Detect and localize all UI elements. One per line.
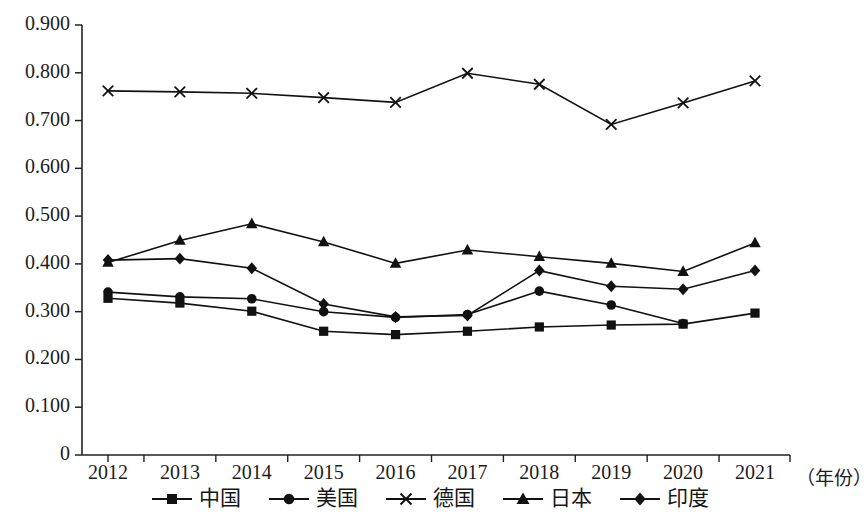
data-point-中国 bbox=[391, 330, 400, 339]
data-point-日本 bbox=[462, 244, 474, 255]
legend-label: 中国 bbox=[199, 488, 241, 509]
data-point-中国 bbox=[319, 327, 328, 336]
y-axis-tick-label: 0.300 bbox=[0, 299, 70, 322]
y-axis-tick-label: 0.600 bbox=[0, 155, 70, 178]
data-point-美国 bbox=[103, 287, 113, 297]
legend-item-中国[interactable]: 中国 bbox=[150, 488, 241, 509]
chart-legend: 中国美国德国日本印度 bbox=[0, 488, 858, 509]
data-point-美国 bbox=[175, 292, 185, 302]
data-point-美国 bbox=[606, 300, 616, 310]
data-point-中国 bbox=[607, 320, 616, 329]
y-axis-tick-label: 0.900 bbox=[0, 12, 70, 35]
data-point-美国 bbox=[535, 286, 545, 296]
x-axis-title: （年份） bbox=[796, 463, 864, 490]
x-axis-tick-label: 2021 bbox=[710, 461, 800, 484]
data-point-中国 bbox=[247, 307, 256, 316]
data-point-印度 bbox=[462, 310, 473, 322]
data-point-印度 bbox=[318, 298, 329, 310]
data-point-日本 bbox=[749, 237, 761, 248]
legend-item-印度[interactable]: 印度 bbox=[618, 488, 709, 509]
data-point-印度 bbox=[678, 283, 689, 295]
data-point-印度 bbox=[390, 311, 401, 323]
data-point-日本 bbox=[246, 218, 258, 229]
data-point-印度 bbox=[534, 265, 545, 277]
y-axis-tick-label: 0 bbox=[0, 442, 70, 465]
y-axis-tick-label: 0.400 bbox=[0, 251, 70, 274]
diamond-marker-icon bbox=[618, 490, 662, 508]
series-line-德国 bbox=[108, 73, 755, 124]
data-point-印度 bbox=[246, 262, 257, 274]
square-marker-icon bbox=[150, 490, 194, 508]
series-line-日本 bbox=[108, 224, 755, 272]
series-line-印度 bbox=[108, 259, 755, 317]
data-point-中国 bbox=[535, 322, 544, 331]
data-point-印度 bbox=[750, 265, 761, 277]
y-axis-tick-label: 0.500 bbox=[0, 203, 70, 226]
y-axis-tick-label: 0.100 bbox=[0, 394, 70, 417]
circle-marker-icon bbox=[267, 490, 311, 508]
data-point-美国 bbox=[247, 294, 257, 304]
data-point-印度 bbox=[606, 280, 617, 292]
legend-label: 美国 bbox=[316, 488, 358, 509]
triangle-marker-icon bbox=[501, 490, 545, 508]
y-axis-tick-label: 0.700 bbox=[0, 108, 70, 131]
data-point-美国 bbox=[678, 319, 688, 329]
legend-label: 印度 bbox=[667, 488, 709, 509]
cross-marker-icon bbox=[384, 490, 428, 508]
y-axis-tick-label: 0.200 bbox=[0, 346, 70, 369]
data-point-中国 bbox=[463, 327, 472, 336]
legend-item-日本[interactable]: 日本 bbox=[501, 488, 592, 509]
data-point-中国 bbox=[750, 309, 759, 318]
legend-label: 日本 bbox=[550, 488, 592, 509]
legend-item-美国[interactable]: 美国 bbox=[267, 488, 358, 509]
legend-item-德国[interactable]: 德国 bbox=[384, 488, 475, 509]
data-point-印度 bbox=[175, 253, 186, 265]
legend-label: 德国 bbox=[433, 488, 475, 509]
y-axis-tick-label: 0.800 bbox=[0, 60, 70, 83]
